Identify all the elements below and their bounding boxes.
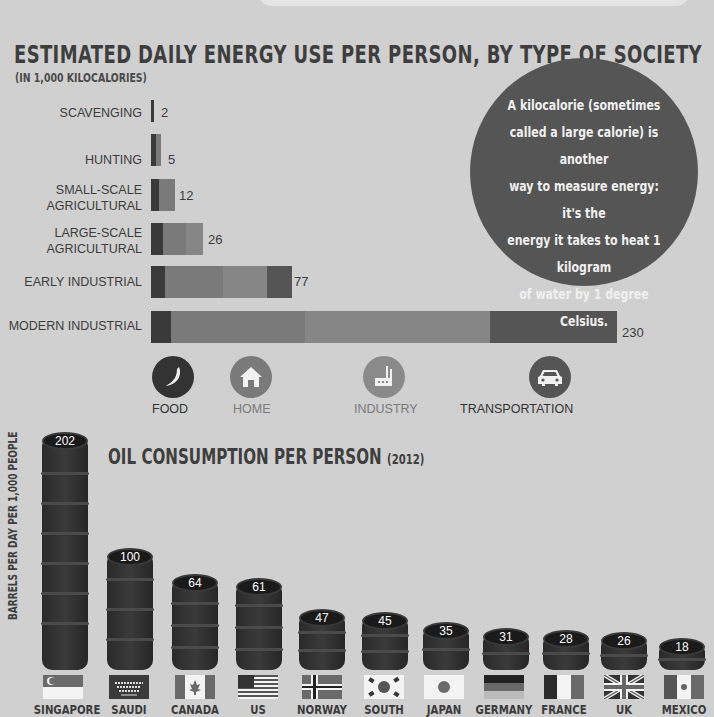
oil-chart-y-axis-label: BARRELS PER DAY PER 1,000 PEOPLE	[6, 431, 20, 620]
barrel-france: 28	[543, 630, 589, 670]
flag-south-korea-icon	[364, 675, 404, 699]
flag-norway-icon	[302, 675, 342, 699]
legend-label-home: HOME	[233, 402, 271, 416]
category-label-large-scale: LARGE-SCALEAGRICULTURAL	[46, 225, 142, 257]
category-label-small-scale: SMALL-SCALEAGRICULTURAL	[46, 182, 142, 214]
barrel-value: 28	[543, 630, 589, 648]
bar-hunting	[151, 134, 161, 166]
segment-food	[151, 311, 171, 343]
segment-food	[151, 179, 159, 211]
flag-japan-icon	[424, 675, 464, 699]
segment-food	[151, 100, 154, 122]
country-label-germany: GERMANY	[473, 702, 535, 717]
segment-food	[151, 266, 165, 298]
flag-germany-icon	[484, 675, 524, 699]
energy-chart-subtitle: (IN 1,000 KILOCALORIES)	[15, 71, 147, 85]
flag-us-icon	[238, 675, 278, 699]
flag-mexico-icon	[664, 675, 704, 699]
car-icon	[529, 356, 571, 398]
barrel-canada: 64	[172, 574, 218, 670]
country-label-uk: UK	[593, 702, 655, 717]
segment-industry	[186, 223, 203, 255]
flag-saudi-icon	[109, 675, 149, 699]
oil-chart-title: OIL CONSUMPTION PER PERSON (2012)	[108, 445, 424, 469]
barrel-south-korea: 45	[362, 612, 408, 670]
bar-scavenging	[151, 100, 154, 122]
country-label-us: US	[227, 702, 289, 717]
category-label-hunting: HUNTING	[85, 152, 142, 168]
country-label-france: FRANCE	[533, 702, 595, 717]
flag-uk-icon	[604, 675, 644, 699]
barrel-value: 18	[659, 638, 705, 656]
legend-label-industry: INDUSTRY	[354, 402, 418, 416]
barrel-value: 35	[423, 622, 469, 640]
barrel-japan: 35	[423, 622, 469, 670]
banana-icon	[152, 356, 194, 398]
barrel-value: 31	[483, 628, 529, 646]
segment-industry	[223, 266, 267, 298]
value-early-industrial: 77	[294, 274, 308, 289]
country-label-mexico: MEXICO	[653, 702, 714, 717]
flag-canada-icon	[175, 675, 215, 699]
flag-france-icon	[544, 675, 584, 699]
barrel-saudi: 100	[107, 548, 153, 670]
barrel-germany: 31	[483, 628, 529, 670]
house-icon	[230, 356, 272, 398]
legend-label-transportation: TRANSPORTATION	[460, 402, 573, 416]
country-label-norway: NORWAY	[291, 702, 353, 717]
flag-singapore-icon	[43, 675, 83, 699]
factory-icon	[363, 356, 405, 398]
segment-home	[171, 311, 305, 343]
barrel-uk: 26	[601, 632, 647, 670]
barrel-value: 47	[299, 609, 345, 627]
country-label-saudi: SAUDI	[98, 702, 160, 717]
barrel-value: 26	[601, 632, 647, 650]
barrel-us: 61	[236, 578, 282, 670]
category-label-scavenging: SCAVENGING	[60, 105, 142, 121]
value-small-scale: 12	[179, 188, 193, 203]
barrel-mexico: 18	[659, 638, 705, 670]
kilocalorie-note-text: A kilocalorie (sometimes called a large …	[501, 92, 667, 335]
barrel-value: 202	[42, 432, 88, 450]
barrel-norway: 47	[299, 609, 345, 670]
segment-home	[156, 134, 161, 166]
country-label-japan: JAPAN	[413, 702, 475, 717]
barrel-value: 61	[236, 578, 282, 596]
segment-industry	[305, 311, 490, 343]
value-hunting: 5	[168, 152, 175, 167]
segment-home	[165, 266, 223, 298]
category-label-modern-industrial: MODERN INDUSTRIAL	[9, 318, 142, 334]
value-large-scale: 26	[208, 232, 222, 247]
value-scavenging: 2	[161, 105, 168, 120]
top-panel-edge	[258, 0, 690, 6]
legend-label-food: FOOD	[152, 402, 188, 416]
segment-transportation	[267, 266, 292, 298]
country-label-canada: CANADA	[164, 702, 226, 717]
segment-home	[163, 223, 186, 255]
segment-food	[151, 223, 163, 255]
bar-large-scale	[151, 223, 203, 255]
segment-home	[159, 179, 175, 211]
category-label-early-industrial: EARLY INDUSTRIAL	[24, 274, 142, 290]
country-label-singapore: SINGAPORE	[34, 702, 96, 717]
bar-early-industrial	[151, 266, 292, 298]
barrel-value: 64	[172, 574, 218, 592]
barrel-value: 100	[107, 548, 153, 566]
bar-small-scale	[151, 179, 175, 211]
barrel-singapore: 202	[42, 432, 88, 670]
country-label-south: SOUTH	[353, 702, 415, 717]
barrel-value: 45	[362, 612, 408, 630]
